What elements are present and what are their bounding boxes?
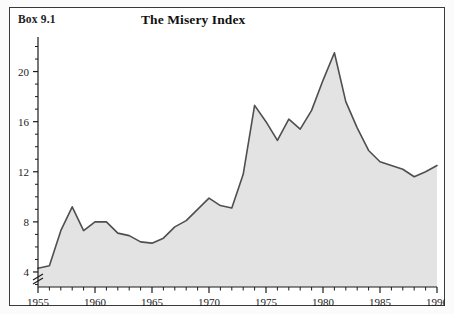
x-tick-label: 1955: [27, 296, 50, 306]
y-tick-label: 4: [24, 266, 30, 278]
x-tick-label: 1975: [255, 296, 278, 306]
x-tick-label: 1990: [426, 296, 445, 306]
y-tick-label: 12: [18, 166, 29, 178]
x-tick-label: 1985: [369, 296, 392, 306]
x-tick-label: 1965: [141, 296, 164, 306]
y-tick-label: 16: [18, 116, 30, 128]
x-tick-label: 1970: [198, 296, 221, 306]
x-axis: 19551960196519701975198019851990: [27, 287, 445, 306]
figure-root: Box 9.1 The Misery Index 48121620 195519…: [0, 0, 454, 314]
x-tick-label: 1980: [312, 296, 335, 306]
x-tick-label: 1960: [84, 296, 107, 306]
chart-area-fill-group: [38, 53, 437, 287]
y-tick-label: 8: [24, 216, 30, 228]
area-fill-path: [38, 53, 437, 287]
y-axis: 48121620: [18, 37, 38, 287]
misery-index-area-chart: 48121620 1955196019651970197519801985199…: [9, 7, 445, 306]
y-tick-label: 20: [18, 66, 30, 78]
